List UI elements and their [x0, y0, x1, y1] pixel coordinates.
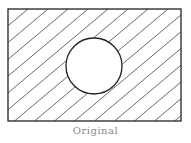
hatch-line [115, 9, 191, 121]
hatch-line [175, 9, 191, 121]
figure-caption: Original [0, 125, 191, 136]
set-circle [66, 38, 122, 94]
hatch-line [135, 9, 191, 121]
venn-complement-diagram [0, 0, 191, 125]
hatch-line [155, 9, 191, 121]
hatch-line [0, 9, 8, 121]
